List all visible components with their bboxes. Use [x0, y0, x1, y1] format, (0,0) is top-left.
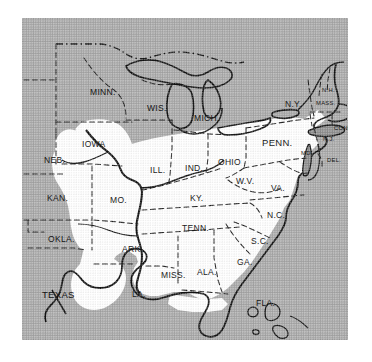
- state-label-nh: N.H.: [322, 88, 335, 94]
- state-label-ky: KY.: [190, 194, 204, 203]
- state-label-fla: FLA.: [256, 299, 275, 308]
- state-label-neb: NEB.: [44, 156, 65, 165]
- state-label-conn: CONN.: [334, 126, 348, 132]
- state-label-wis: WIS.: [147, 104, 167, 113]
- state-label-mass: MASS.: [316, 101, 336, 107]
- state-label-wv: W.V.: [236, 177, 254, 186]
- state-label-okla: OKLA.: [48, 235, 75, 244]
- state-label-iowa: IOWA: [82, 140, 106, 149]
- map-plate: MINN.WIS.MICH.IOWANEB.ILL.IND.OHIOPENN.N…: [22, 18, 348, 340]
- border-okla-panhandle: [28, 220, 44, 232]
- map-figure: MINN.WIS.MICH.IOWANEB.ILL.IND.OHIOPENN.N…: [0, 0, 372, 362]
- state-label-ga: GA.: [237, 258, 253, 267]
- state-label-ind: IND.: [185, 164, 203, 173]
- state-label-ill: ILL.: [150, 166, 165, 175]
- state-label-la: LA.: [132, 290, 146, 299]
- state-label-miss: MISS.: [161, 271, 186, 280]
- border-okla-tex: [28, 248, 86, 250]
- state-label-tenn: TENN.: [182, 224, 209, 233]
- state-label-ala: ALA.: [197, 268, 217, 277]
- state-label-ark: ARK.: [122, 245, 143, 254]
- lake-ontario-outline: [272, 110, 299, 119]
- lake-michigan-outline: [167, 84, 194, 129]
- state-label-texas: TEXAS: [42, 290, 75, 300]
- state-label-mich: MICH.: [194, 114, 220, 123]
- state-label-ohio: OHIO: [218, 158, 241, 167]
- state-label-del: DEL.: [327, 158, 341, 164]
- state-label-md: MD.: [301, 151, 313, 157]
- state-label-minn: MINN.: [90, 88, 116, 97]
- state-label-nc: N.C.: [267, 211, 285, 220]
- state-label-mo: MO.: [110, 196, 127, 205]
- florida-keys: [248, 303, 288, 338]
- state-label-kan: KAN.: [47, 194, 68, 203]
- state-label-penn: PENN.: [262, 138, 293, 148]
- state-label-sc: S.C.: [251, 237, 269, 246]
- state-label-va: VA.: [271, 184, 285, 193]
- state-label-ny: N.Y.: [285, 100, 302, 109]
- antilles-outline: [290, 316, 308, 328]
- state-label-nj: N.J.: [323, 137, 335, 143]
